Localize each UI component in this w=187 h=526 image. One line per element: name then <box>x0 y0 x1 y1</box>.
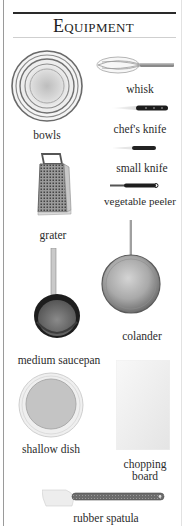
label-rubber-spatula: rubber spatula <box>56 512 156 524</box>
item-vegetable-peeler <box>110 182 160 189</box>
shallow-dish-icon <box>18 372 84 438</box>
saucepan-icon <box>33 248 81 340</box>
page-title: EQUIPMENT <box>0 16 187 37</box>
item-bowls <box>10 48 84 124</box>
vegetable-peeler-icon <box>110 182 160 189</box>
label-small-knife: small knife <box>106 162 178 174</box>
label-shallow-dish: shallow dish <box>14 443 88 455</box>
label-medium-saucepan: medium saucepan <box>14 354 104 366</box>
label-whisk: whisk <box>110 83 170 95</box>
label-grater: grater <box>20 229 86 241</box>
label-colander: colander <box>110 330 174 342</box>
small-knife-icon <box>112 145 158 151</box>
page-border-left <box>3 0 4 526</box>
grater-icon <box>34 152 72 218</box>
label-bowls: bowls <box>14 129 80 141</box>
item-small-knife <box>112 145 158 151</box>
title-rest: QUIPMENT <box>64 20 134 35</box>
item-colander <box>99 220 163 314</box>
item-shallow-dish <box>18 372 84 438</box>
page-border-right <box>181 0 182 526</box>
item-grater <box>34 152 72 218</box>
chefs-knife-icon <box>110 104 170 112</box>
header-rule-bottom <box>13 37 176 38</box>
item-chopping-board <box>116 360 170 450</box>
rubber-spatula-icon <box>42 488 168 508</box>
label-chopping-board: chopping board <box>116 458 174 482</box>
item-whisk <box>96 54 180 76</box>
label-vegetable-peeler: vegetable peeler <box>98 195 182 207</box>
title-initial: E <box>53 16 64 36</box>
label-chopping-board-line1: chopping <box>116 458 174 470</box>
label-chefs-knife: chef's knife <box>104 123 176 135</box>
item-chefs-knife <box>110 104 170 112</box>
item-medium-saucepan <box>33 248 81 340</box>
whisk-icon <box>96 54 180 76</box>
header-rule-top <box>13 12 176 14</box>
bowls-icon <box>10 48 84 124</box>
label-chopping-board-line2: board <box>116 470 174 482</box>
colander-icon <box>99 220 163 314</box>
chopping-board-icon <box>116 360 170 450</box>
item-rubber-spatula <box>42 488 168 508</box>
